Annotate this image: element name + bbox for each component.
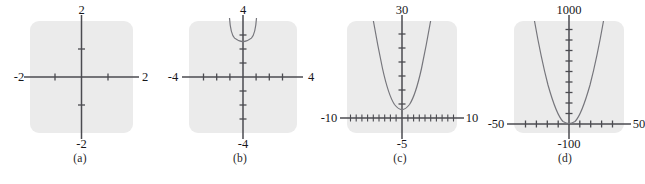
y-top-label-d: 1000	[557, 3, 582, 17]
y-top-label-b: 4	[240, 3, 247, 17]
x-right-label-a: 2	[142, 70, 148, 84]
panel-d-plot: 1000 -100 -50 50	[485, 0, 645, 150]
panel-caption-b: (b)	[160, 152, 320, 164]
panel-caption-d: (d)	[485, 152, 645, 164]
y-bottom-label-d: -100	[558, 137, 581, 150]
x-right-label-c: 10	[466, 111, 479, 125]
panel-caption-a: (a)	[0, 152, 160, 164]
x-right-label-d: 50	[633, 117, 645, 131]
y-top-label-a: 2	[78, 3, 84, 17]
y-top-label-c: 30	[396, 3, 409, 17]
panel-a-plot: 2 -2 -2 2	[0, 0, 160, 150]
x-left-label-a: -2	[14, 70, 24, 84]
panel-a: 2 -2 -2 2 (a)	[0, 0, 160, 184]
panel-b: 4 -4 -4 4 (b)	[160, 0, 320, 184]
y-bottom-label-a: -2	[76, 137, 86, 150]
panel-c-plot: 30 -5 -10 10	[320, 0, 480, 150]
panel-d: 1000 -100 -50 50 (d)	[485, 0, 645, 184]
x-left-label-c: -10	[321, 111, 338, 125]
x-left-label-b: -4	[168, 70, 179, 84]
panel-c: 30 -5 -10 10 (c)	[320, 0, 480, 184]
y-bottom-label-b: -4	[238, 137, 249, 150]
y-bottom-label-c: -5	[397, 137, 407, 150]
x-left-label-d: -50	[488, 117, 505, 131]
panel-caption-c: (c)	[320, 152, 480, 164]
x-right-label-b: 4	[308, 70, 315, 84]
panel-b-plot: 4 -4 -4 4	[160, 0, 320, 150]
figure-four-viewing-windows: 2 -2 -2 2 (a)	[0, 0, 645, 184]
